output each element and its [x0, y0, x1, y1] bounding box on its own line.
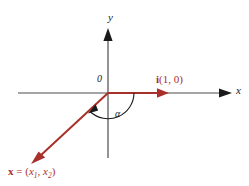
vector-x-name: x	[8, 165, 14, 177]
x-axis-arrowhead-icon	[219, 88, 232, 97]
vector-x-equals: =	[16, 165, 22, 177]
y-axis-arrowhead-icon	[103, 28, 112, 41]
vector-angle-diagram: y x 0 α i(1, 0) x = (x1, x2)	[0, 0, 249, 186]
unit-vector-i-arrowhead-icon	[157, 88, 169, 98]
vector-x-label: x = (x1, x2)	[8, 166, 55, 180]
origin-label: 0	[97, 74, 102, 84]
diagram-canvas	[0, 0, 249, 186]
angle-alpha-label: α	[115, 109, 120, 119]
unit-vector-i-coords: (1, 0)	[159, 73, 183, 85]
y-axis-label: y	[108, 12, 113, 23]
vector-x-comma: ,	[38, 165, 41, 177]
unit-vector-i-label: i(1, 0)	[156, 74, 183, 85]
vector-x-close-paren: )	[52, 165, 56, 177]
vector-x-shaft	[40, 93, 108, 156]
x-axis-label: x	[236, 85, 241, 96]
angle-arc	[90, 93, 134, 119]
